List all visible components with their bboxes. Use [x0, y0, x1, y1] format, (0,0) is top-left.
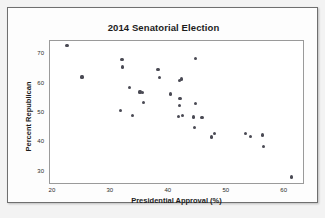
chart-title: 2014 Senatorial Election	[8, 22, 319, 33]
x-axis-title: Presidential Approval (%)	[49, 196, 304, 205]
x-tick-label: 30	[107, 187, 114, 193]
figure-root: 2014 Senatorial Election 2030405060 3040…	[0, 0, 325, 218]
x-tick-label: 20	[49, 187, 56, 193]
x-tick-label: 40	[164, 187, 171, 193]
chart-card: 2014 Senatorial Election 2030405060 3040…	[7, 7, 318, 203]
x-tick-label: 50	[222, 187, 229, 193]
x-tick-label: 60	[280, 187, 287, 193]
plot-frame	[49, 40, 304, 184]
y-axis-title: Percent Republican	[24, 57, 33, 177]
y-tick-label: 70	[28, 50, 44, 56]
